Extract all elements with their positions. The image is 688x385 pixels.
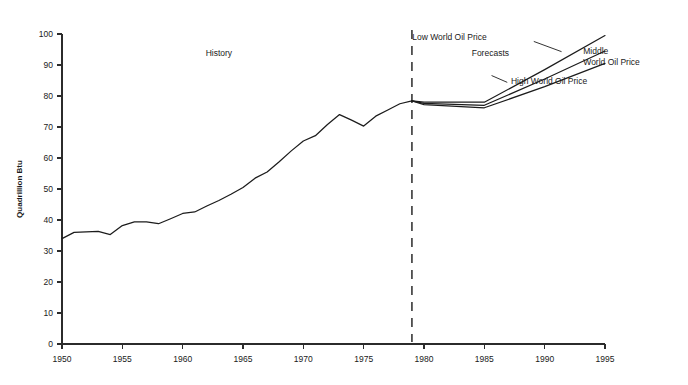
y-tick-label: 30 <box>44 246 54 256</box>
region-labels: HistoryForecasts <box>206 48 509 58</box>
x-tick-label: 1955 <box>113 354 132 364</box>
x-tick-label: 1985 <box>475 354 494 364</box>
y-tick-label: 50 <box>44 184 54 194</box>
x-tick-label: 1990 <box>535 354 554 364</box>
leader-line-high-world-oil-price <box>492 76 508 83</box>
series-annotations: Low World Oil PriceMiddleWorld Oil Price… <box>412 32 640 85</box>
y-tick-label: 90 <box>44 60 54 70</box>
x-tick-label: 1980 <box>415 354 434 364</box>
x-tick-label: 1960 <box>173 354 192 364</box>
series-line-high-world-oil-price <box>412 63 605 107</box>
x-tick-label: 1970 <box>294 354 313 364</box>
chart-canvas: 0102030405060708090100 19501955196019651… <box>0 0 688 385</box>
y-tick-label: 80 <box>44 91 54 101</box>
series-line-history <box>62 101 412 239</box>
series-label-middle-world-oil-price: MiddleWorld Oil Price <box>583 46 640 67</box>
y-tick-label: 0 <box>48 339 53 349</box>
y-tick-label: 100 <box>39 29 53 39</box>
y-tick-label: 40 <box>44 215 54 225</box>
x-tick-label: 1975 <box>354 354 373 364</box>
series-label-low-world-oil-price: Low World Oil Price <box>412 32 487 42</box>
y-tick-label: 60 <box>44 153 54 163</box>
y-axis-title: Quadrillion Btu <box>15 160 24 218</box>
series-label-line: World Oil Price <box>583 57 640 67</box>
y-axis-ticks: 0102030405060708090100 <box>39 29 62 349</box>
leader-line-low-world-oil-price <box>534 41 562 51</box>
region-label-forecasts: Forecasts <box>472 48 509 58</box>
y-tick-label: 10 <box>44 308 54 318</box>
series-line-low-world-oil-price <box>412 36 605 103</box>
series-lines <box>62 36 605 239</box>
series-label-high-world-oil-price: High World Oil Price <box>511 76 588 86</box>
x-tick-label: 1965 <box>234 354 253 364</box>
region-label-history: History <box>206 48 233 58</box>
y-tick-label: 20 <box>44 277 54 287</box>
energy-consumption-chart: 0102030405060708090100 19501955196019651… <box>0 0 688 385</box>
series-label-line: Low World Oil Price <box>412 32 487 42</box>
series-label-line: Middle <box>583 46 608 56</box>
series-label-line: High World Oil Price <box>511 76 588 86</box>
y-tick-label: 70 <box>44 122 54 132</box>
x-tick-label: 1950 <box>53 354 72 364</box>
x-tick-label: 1995 <box>596 354 615 364</box>
x-axis-ticks: 1950195519601965197019751980198519901995 <box>53 344 615 364</box>
